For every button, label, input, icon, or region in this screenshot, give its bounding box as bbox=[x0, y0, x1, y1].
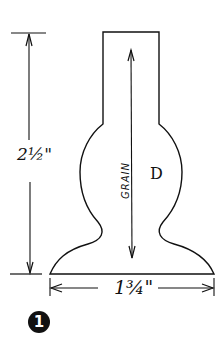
pattern-drawing bbox=[0, 0, 224, 352]
figure-number: 1 bbox=[28, 312, 50, 332]
part-label: D bbox=[150, 164, 163, 183]
width-label: 1¾" bbox=[114, 276, 153, 298]
grain-arrow bbox=[128, 50, 135, 258]
grain-label: GRAIN bbox=[120, 156, 131, 206]
height-label: 2½" bbox=[17, 144, 52, 164]
